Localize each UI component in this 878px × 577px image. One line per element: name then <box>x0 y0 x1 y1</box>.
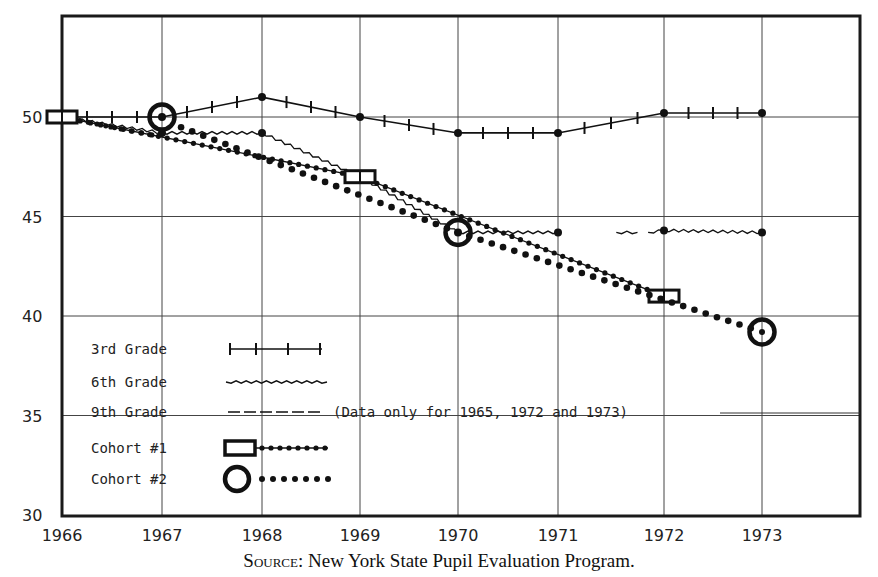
marker <box>554 228 562 236</box>
dot <box>442 207 447 212</box>
dot <box>646 292 653 299</box>
dot <box>289 166 296 173</box>
dot <box>556 262 563 269</box>
dot <box>149 132 154 137</box>
dot <box>624 284 631 291</box>
x-tick-label: 1967 <box>142 526 183 545</box>
marker <box>356 113 364 121</box>
series-cohort-2 <box>62 105 775 345</box>
x-tick-label: 1970 <box>438 526 479 545</box>
dot <box>594 267 599 272</box>
legend-label: Cohort #1 <box>91 440 167 456</box>
plot-frame <box>62 16 860 516</box>
dot <box>560 254 565 259</box>
dot <box>590 273 597 280</box>
dot <box>511 248 518 255</box>
x-tick-label: 1973 <box>742 526 783 545</box>
dot <box>277 445 282 450</box>
dot <box>200 142 205 147</box>
dot <box>286 445 291 450</box>
dot <box>450 211 455 216</box>
dot <box>189 128 196 135</box>
dot <box>139 130 144 135</box>
dot <box>612 281 619 288</box>
marker-center <box>455 229 461 235</box>
dot <box>156 134 161 139</box>
dot <box>522 251 529 258</box>
dot <box>173 137 178 142</box>
dot <box>611 274 616 279</box>
y-axis: 5045403530 <box>22 108 42 525</box>
dot <box>108 124 113 129</box>
legend-square-marker <box>225 441 255 455</box>
dot <box>322 167 327 172</box>
legend-note: (Data only for 1965, 1972 and 1973) <box>333 404 628 420</box>
marker <box>554 129 562 137</box>
dot <box>433 204 438 209</box>
legend-label: Cohort #2 <box>91 471 167 487</box>
dot <box>628 280 633 285</box>
dot <box>103 123 108 128</box>
x-tick-label: 1972 <box>644 526 685 545</box>
dot <box>680 303 687 310</box>
dot <box>287 160 292 165</box>
dot <box>304 445 309 450</box>
dot <box>303 476 309 482</box>
marker <box>660 226 668 234</box>
dot <box>484 224 489 229</box>
dot <box>268 445 273 450</box>
legend-label: 9th Grade <box>91 404 167 420</box>
dot <box>98 122 103 127</box>
dot <box>388 204 395 211</box>
y-tick-label: 30 <box>22 506 42 525</box>
dot <box>78 118 83 123</box>
dot <box>191 141 196 146</box>
dot <box>119 126 124 131</box>
legend-label: 6th Grade <box>91 374 167 390</box>
dot <box>314 476 320 482</box>
dot <box>178 124 185 131</box>
dot <box>182 139 187 144</box>
dot <box>577 260 582 265</box>
dot <box>255 153 262 160</box>
dot <box>488 240 495 247</box>
dot <box>619 277 624 282</box>
dot <box>410 212 417 219</box>
x-tick-label: 1971 <box>538 526 579 545</box>
dot <box>355 191 362 198</box>
dot <box>601 277 608 284</box>
dot <box>501 230 506 235</box>
dot <box>217 146 222 151</box>
dot <box>281 476 287 482</box>
dot <box>691 307 698 314</box>
source-text: : New York State Pupil Evaluation Progra… <box>298 550 635 571</box>
dot <box>408 194 413 199</box>
dot <box>296 162 301 167</box>
dot <box>300 170 307 177</box>
legend-circle-marker <box>225 467 249 491</box>
marker-center <box>759 329 765 335</box>
dot <box>200 132 207 139</box>
dot <box>552 250 557 255</box>
dot <box>417 197 422 202</box>
dot <box>635 288 642 295</box>
dot <box>325 476 331 482</box>
x-tick-label: 1969 <box>340 526 381 545</box>
dot <box>543 247 548 252</box>
dot <box>476 221 481 226</box>
dot <box>535 244 540 249</box>
dot <box>493 227 498 232</box>
marker <box>758 228 766 236</box>
dot <box>421 216 428 223</box>
dot <box>233 145 240 152</box>
source-note: Source: New York State Pupil Evaluation … <box>0 550 878 572</box>
dot <box>383 184 388 189</box>
x-axis: 19661967196819691970197119721973 <box>42 526 783 545</box>
x-tick-label: 1966 <box>42 526 83 545</box>
dot <box>714 314 721 321</box>
dot <box>400 191 405 196</box>
y-tick-label: 45 <box>22 208 42 227</box>
y-tick-label: 40 <box>22 307 42 326</box>
marker-center <box>159 114 165 120</box>
y-tick-label: 50 <box>22 108 42 127</box>
